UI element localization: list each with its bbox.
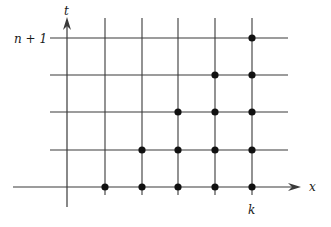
grid-point [248, 183, 255, 190]
x-axis-label: x [309, 180, 316, 194]
grid-point [174, 183, 181, 190]
grid-point [138, 183, 145, 190]
grid-point [248, 108, 255, 115]
grid-point [211, 71, 218, 78]
grid-lines [50, 18, 288, 195]
t-axis-label: t [64, 4, 69, 18]
x-axis [13, 183, 301, 191]
row-label-n-plus-1: n + 1 [14, 32, 47, 46]
grid-point [174, 108, 181, 115]
grid-point [101, 183, 108, 190]
grid-point [248, 71, 255, 78]
grid-point [248, 34, 255, 41]
grid-point [211, 183, 218, 190]
grid-point [138, 146, 145, 153]
grid-point [174, 146, 181, 153]
stencil-diagram: t x n + 1 k [0, 0, 331, 227]
row-label-text: n + 1 [14, 32, 47, 46]
diagram-svg: t x n + 1 k [0, 0, 331, 227]
grid-point [211, 146, 218, 153]
column-label-k: k [248, 203, 255, 217]
grid-point [211, 108, 218, 115]
grid-point [248, 146, 255, 153]
